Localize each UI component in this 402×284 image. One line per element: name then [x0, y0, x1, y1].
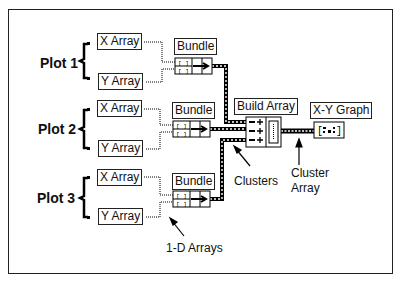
plot-3-y-array: Y Array	[98, 208, 143, 225]
plot-2-label: Plot 2	[38, 121, 76, 137]
plot-2-y-array: Y Array	[98, 140, 143, 157]
svg-text:[ ]: [ ]	[176, 131, 187, 138]
svg-text:[: [	[317, 126, 323, 137]
plot-3-label: Plot 3	[37, 190, 75, 206]
plot-1-label: Plot 1	[40, 55, 78, 71]
plot-1-x-array: X Array	[97, 33, 142, 50]
plot-1-bundle-label: Bundle	[174, 38, 217, 55]
plot-3-bundle-label: Bundle	[172, 173, 215, 190]
one-d-arrays-annotation: 1-D Arrays	[166, 241, 223, 255]
cluster-array-annotation-line1: Cluster	[291, 166, 329, 180]
svg-text:[ ]: [ ]	[176, 193, 187, 200]
plot-1-y-array: Y Array	[98, 73, 143, 90]
build-array-label: Build Array	[234, 98, 298, 115]
xy-graph-terminal-icon: [ ]	[314, 122, 344, 138]
plot-3-x-array: X Array	[97, 169, 142, 186]
array-wires	[144, 42, 175, 217]
svg-text:[ ]: [ ]	[178, 60, 189, 67]
svg-text:[ ]: [ ]	[178, 68, 189, 75]
svg-text:[ ]: [ ]	[176, 123, 187, 130]
plot-2-bundle-label: Bundle	[172, 102, 215, 119]
brace-icon	[80, 44, 88, 217]
svg-text:]: ]	[336, 126, 342, 137]
xy-graph-label: X-Y Graph	[310, 102, 372, 119]
build-array-node-icon	[246, 117, 281, 147]
svg-text:[ ]: [ ]	[176, 201, 187, 208]
clusters-annotation: Clusters	[234, 174, 278, 188]
plot-2-x-array: X Array	[97, 100, 142, 117]
cluster-array-annotation-line2: Array	[291, 181, 320, 195]
